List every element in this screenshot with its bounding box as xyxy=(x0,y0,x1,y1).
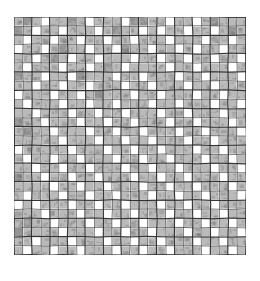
grid-pattern-chart xyxy=(14,17,246,255)
grid-heatmap-canvas xyxy=(14,17,246,255)
page-root: Grid Pattern Chart xyxy=(0,0,260,281)
